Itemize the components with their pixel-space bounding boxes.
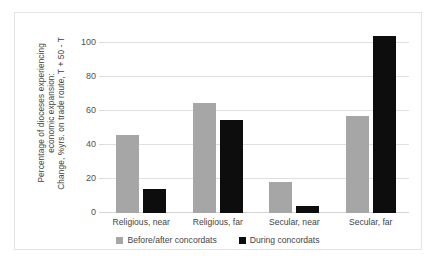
legend-label: Before/after concordats	[127, 235, 216, 245]
y-axis-title-line-3: Change, %yrs. on trade route, T + 50 - T	[57, 37, 65, 190]
x-axis-category-label: Secular, far	[333, 217, 410, 227]
chart-figure: Percentage of dioceses experiencing econ…	[14, 12, 422, 250]
x-axis-category-label: Religious, far	[180, 217, 257, 227]
y-axis-tick-label: 40	[86, 139, 96, 149]
bar[interactable]	[193, 103, 216, 214]
bars-layer	[103, 26, 409, 213]
bar-group	[103, 26, 180, 213]
y-axis-tick-label: 60	[86, 105, 96, 115]
bar-group	[256, 26, 333, 213]
y-axis-tick-label: 0	[91, 207, 96, 217]
y-axis-tick-label: 80	[86, 71, 96, 81]
bar[interactable]	[143, 189, 166, 213]
legend-swatch-icon	[116, 237, 123, 244]
chart-legend: Before/after concordatsDuring concordats	[15, 235, 421, 245]
y-axis-tick-label: 100	[81, 37, 96, 47]
legend-label: During concordats	[250, 235, 320, 245]
y-axis-title: Percentage of dioceses experiencing econ…	[23, 13, 79, 213]
legend-item[interactable]: Before/after concordats	[116, 235, 216, 245]
x-axis-category-label: Secular, near	[256, 217, 333, 227]
bar[interactable]	[116, 135, 139, 213]
y-axis-title-line-1: Percentage of dioceses experiencing	[37, 43, 45, 183]
bar[interactable]	[269, 182, 292, 213]
bar-group	[180, 26, 257, 213]
legend-swatch-icon	[239, 237, 246, 244]
bar[interactable]	[220, 120, 243, 214]
legend-item[interactable]: During concordats	[239, 235, 320, 245]
x-axis-category-label: Religious, near	[103, 217, 180, 227]
y-axis-title-line-2: economic expansion:	[47, 73, 55, 153]
bar[interactable]	[373, 36, 396, 213]
bar[interactable]	[296, 206, 319, 213]
bar[interactable]	[346, 116, 369, 213]
x-axis-category-labels: Religious, nearReligious, farSecular, ne…	[103, 217, 409, 227]
bar-group	[333, 26, 410, 213]
plot-area: 020406080100	[103, 26, 409, 213]
y-axis-tick-label: 20	[86, 173, 96, 183]
